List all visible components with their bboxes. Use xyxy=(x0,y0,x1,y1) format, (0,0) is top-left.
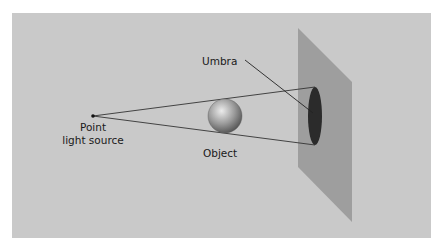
umbra-shadow xyxy=(308,87,322,145)
screen-plane xyxy=(298,28,352,222)
point-light-source-dot xyxy=(91,114,95,118)
object-label: Object xyxy=(203,147,237,160)
ray-top xyxy=(93,87,315,116)
umbra-label: Umbra xyxy=(202,55,237,68)
light-source-label: light source xyxy=(60,134,126,147)
object-sphere xyxy=(208,99,242,133)
ray-bottom xyxy=(93,116,315,145)
point-label: Point xyxy=(60,121,126,134)
